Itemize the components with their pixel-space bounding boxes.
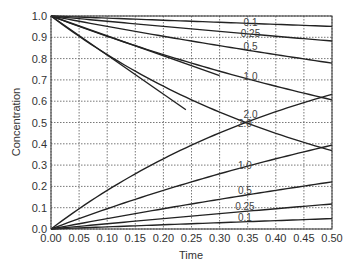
x-tick-label: 0.25: [181, 232, 202, 244]
curve-label: 2.0: [238, 118, 252, 129]
y-tick-label: 0.7: [32, 74, 47, 86]
y-tick-label: 0.2: [32, 180, 47, 192]
curve-label: 1.0: [238, 160, 252, 171]
x-tick-label: 0.45: [293, 232, 314, 244]
grid-lines: [51, 16, 332, 229]
curve-label: 0.25: [235, 201, 255, 212]
curve-label: 0.1: [238, 212, 252, 223]
y-tick-label: 0.0: [32, 223, 47, 235]
y-tick-label: 0.3: [32, 159, 47, 171]
x-tick-label: 0.50: [321, 232, 342, 244]
y-tick-label: 0.1: [32, 202, 47, 214]
curve-label: 0.25: [241, 28, 261, 39]
x-tick-label: 0.20: [153, 232, 174, 244]
curve-label: 1.0: [244, 71, 258, 82]
x-axis-ticks: 0.000.050.100.150.200.250.300.350.400.45…: [40, 232, 342, 244]
curve-1-0-initial-tangent-: [51, 16, 220, 76]
y-axis-title: Concentration: [10, 88, 22, 157]
y-tick-label: 0.4: [32, 138, 47, 150]
y-tick-label: 0.6: [32, 95, 47, 107]
y-axis-ticks: 0.00.10.20.30.40.50.60.70.80.91.0: [32, 10, 47, 235]
curve-label: 0.5: [238, 185, 252, 196]
x-tick-label: 0.10: [96, 232, 117, 244]
x-tick-label: 0.40: [265, 232, 286, 244]
y-tick-label: 0.9: [32, 31, 47, 43]
curve-0-1-decay-: [51, 16, 332, 26]
curve-label: 0.1: [244, 17, 258, 28]
curve-2-0-initial-tangent-: [51, 16, 186, 110]
x-tick-label: 0.05: [68, 232, 89, 244]
y-tick-label: 0.8: [32, 53, 47, 65]
curve-label: 0.5: [244, 41, 258, 52]
y-tick-label: 0.5: [32, 117, 47, 129]
x-tick-label: 0.35: [237, 232, 258, 244]
x-tick-label: 0.30: [209, 232, 230, 244]
concentration-chart: 0.000.050.100.150.200.250.300.350.400.45…: [0, 0, 357, 271]
x-axis-title: Time: [179, 249, 203, 261]
x-tick-label: 0.15: [125, 232, 146, 244]
y-tick-label: 1.0: [32, 10, 47, 22]
